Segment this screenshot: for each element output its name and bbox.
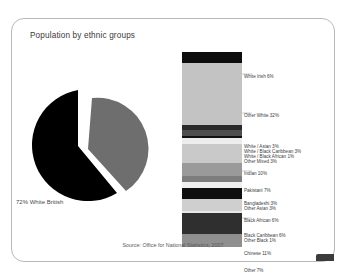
- stacked-bar-chart: [182, 52, 242, 247]
- bar-segment-label: White Irish 6%: [244, 74, 274, 79]
- bar-segment-label: Chinese 11%: [244, 251, 271, 256]
- page-title: Population by ethnic groups: [30, 31, 135, 40]
- pie-annotation-white-british: 72% White British: [16, 199, 63, 205]
- bar-segment: [182, 63, 242, 124]
- bar-segment-label: Black African 6%: [244, 218, 278, 223]
- bar-segment: [182, 199, 242, 210]
- bar-segment: [182, 52, 242, 63]
- bar-segment-label: Other 7%: [244, 268, 263, 273]
- pie-chart: [20, 81, 150, 211]
- bar-segment-label: Indian 10%: [244, 171, 267, 176]
- bar-segment-label: Other White 32%: [244, 113, 279, 118]
- bar-segment: [182, 163, 242, 176]
- pie-chart-svg: [20, 81, 150, 211]
- source-note: Source: Office for National Statistics, …: [12, 242, 334, 248]
- bar-segment-label: Other Mixed 3%: [244, 159, 277, 164]
- corner-tab: [316, 254, 334, 261]
- bar-segment-label: Pakistani 7%: [244, 188, 271, 193]
- bar-segment: [182, 213, 242, 234]
- slide-card: Population by ethnic groups 72% White Br…: [11, 18, 335, 262]
- bar-segment-label: Other Asian 3%: [244, 206, 276, 211]
- bar-segment: [182, 144, 242, 163]
- bar-segment: [182, 188, 242, 199]
- stacked-bar-labels: White Irish 6%Other White 32%White / Asi…: [244, 52, 349, 247]
